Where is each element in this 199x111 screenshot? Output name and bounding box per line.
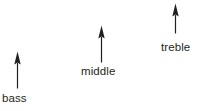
- band-label-middle: middle: [81, 65, 115, 78]
- band-label-treble: treble: [161, 41, 190, 54]
- diagram-canvas: bass middle treble: [0, 0, 199, 111]
- up-arrow-icon-treble: [169, 3, 182, 34]
- up-arrow-icon-middle: [95, 25, 108, 63]
- band-label-bass: bass: [2, 92, 27, 105]
- up-arrow-icon-bass: [11, 51, 24, 89]
